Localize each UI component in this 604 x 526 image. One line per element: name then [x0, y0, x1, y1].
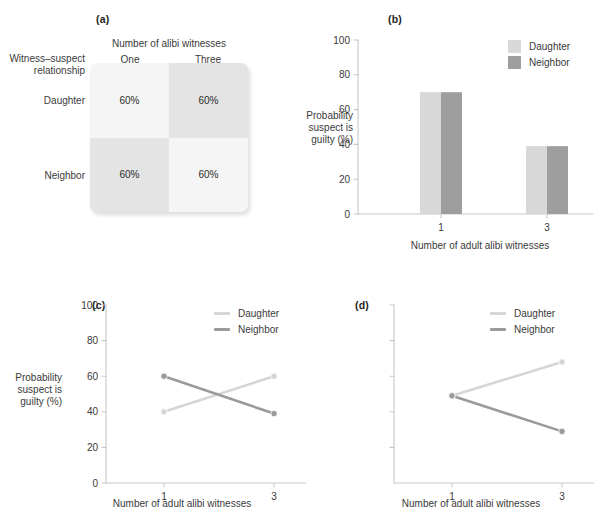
y-tick-label: 40: [87, 406, 99, 417]
panel-d-legend: Daughter Neighbor: [490, 305, 555, 337]
y-tick-label: 80: [87, 335, 99, 346]
matrix-cell-daughter-three: 60%: [169, 63, 248, 138]
point-daughter-1: [161, 409, 167, 415]
panel-a-row-header-daughter: Daughter: [5, 95, 85, 106]
ylabel-line1: Probability: [0, 372, 62, 384]
panel-b-label: (b): [388, 13, 402, 25]
alibi-matrix: 60% 60% 60% 60%: [90, 63, 248, 212]
line-daughter: [452, 362, 562, 396]
legend-label-daughter: Daughter: [529, 41, 570, 52]
y-tick-label: 20: [87, 442, 99, 453]
legend-line-daughter: [214, 312, 230, 315]
panel-c-ylabel: Probability suspect is guilty (%): [0, 372, 62, 408]
y-tick-label: 20: [339, 174, 351, 185]
ylabel-line2: suspect is: [0, 384, 62, 396]
legend-item-neighbor: Neighbor: [214, 321, 279, 337]
bar-neighbor-1: [441, 92, 462, 214]
legend-swatch-daughter: [508, 40, 521, 53]
y-tick-label: 100: [81, 300, 98, 311]
bar-neighbor-3: [547, 146, 568, 214]
y-tick-label: 40: [339, 139, 351, 150]
point-neighbor-1: [161, 373, 167, 379]
legend-item-daughter: Daughter: [490, 305, 555, 321]
legend-item-daughter: Daughter: [508, 38, 570, 54]
panel-a-label: (a): [96, 13, 109, 25]
x-tick-label: 3: [271, 491, 277, 502]
bar-daughter-3: [526, 146, 547, 214]
ylabel-line3: guilty (%): [0, 396, 62, 408]
x-tick-label: 3: [544, 222, 550, 233]
point-neighbor-3: [559, 428, 565, 434]
legend-item-neighbor: Neighbor: [508, 54, 570, 70]
bar-daughter-1: [420, 92, 441, 214]
legend-line-neighbor: [214, 328, 230, 331]
panel-d-svg: 13: [354, 297, 604, 515]
matrix-cell-neighbor-three: 60%: [169, 138, 248, 213]
legend-label-daughter: Daughter: [238, 308, 279, 319]
point-neighbor-3: [271, 410, 277, 416]
legend-line-daughter: [490, 312, 506, 315]
panel-d-xlabel: Number of adult alibi witnesses: [386, 498, 556, 509]
y-tick-label: 0: [344, 209, 350, 220]
y-tick-label: 100: [333, 35, 350, 46]
legend-label-neighbor: Neighbor: [238, 324, 279, 335]
point-daughter-3: [271, 373, 277, 379]
row-group-title-line1: Witness–suspect: [5, 53, 85, 65]
point-daughter-3: [559, 359, 565, 365]
legend-item-neighbor: Neighbor: [490, 321, 555, 337]
legend-line-neighbor: [490, 328, 506, 331]
panel-a-column-group-title: Number of alibi witnesses: [112, 38, 226, 49]
y-tick-label: 60: [339, 104, 351, 115]
y-tick-label: 60: [87, 371, 99, 382]
point-neighbor-1: [449, 393, 455, 399]
legend-label-daughter: Daughter: [514, 308, 555, 319]
row-group-title-line2: relationship: [5, 65, 85, 77]
figure-canvas: (a) Number of alibi witnesses Witness–su…: [0, 0, 604, 526]
line-neighbor: [452, 396, 562, 432]
legend-label-neighbor: Neighbor: [529, 57, 570, 68]
x-tick-label: 3: [559, 491, 565, 502]
x-tick-label: 1: [438, 222, 444, 233]
panel-b-legend: Daughter Neighbor: [508, 38, 570, 70]
panel-b-xlabel: Number of adult alibi witnesses: [400, 240, 560, 251]
legend-label-neighbor: Neighbor: [514, 324, 555, 335]
panel-c-xlabel: Number of adult alibi witnesses: [97, 498, 267, 509]
legend-swatch-neighbor: [508, 56, 521, 69]
panel-c-legend: Daughter Neighbor: [214, 305, 279, 337]
legend-item-daughter: Daughter: [214, 305, 279, 321]
y-tick-label: 0: [92, 478, 98, 489]
y-tick-label: 80: [339, 69, 351, 80]
panel-a-row-group-title: Witness–suspect relationship: [5, 53, 85, 77]
matrix-cell-neighbor-one: 60%: [90, 138, 169, 213]
panel-c-svg: 02040608010013: [66, 297, 336, 515]
panel-a-row-header-neighbor: Neighbor: [5, 170, 85, 181]
matrix-cell-daughter-one: 60%: [90, 63, 169, 138]
